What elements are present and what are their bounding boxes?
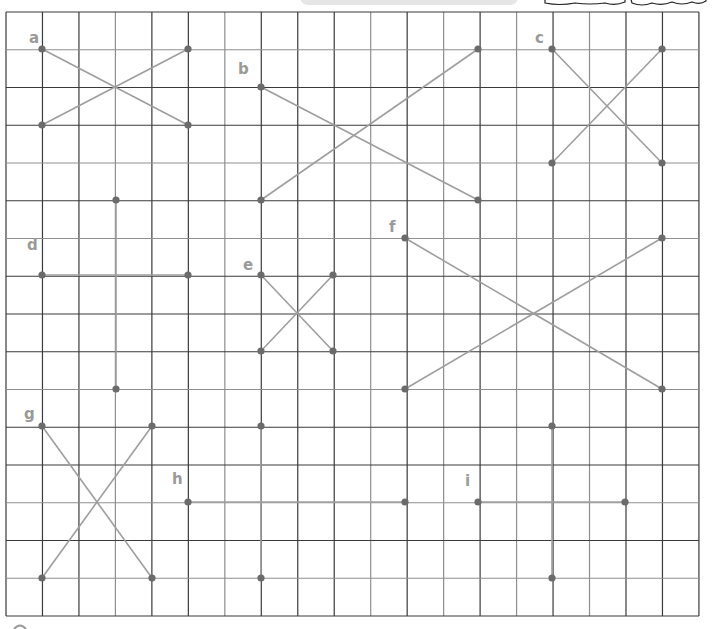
endpoint-dot (38, 121, 45, 128)
endpoint-dot (184, 498, 191, 505)
figure-label-f: f (389, 218, 396, 236)
endpoint-dot (38, 45, 45, 52)
top-wavy-shape-right (630, 0, 706, 5)
endpoint-dot (401, 234, 408, 241)
segment-b (261, 87, 478, 200)
top-wavy-shape-left (545, 0, 625, 5)
endpoint-dot (257, 196, 264, 203)
endpoint-dot (474, 498, 481, 505)
cropped-icon (14, 626, 26, 629)
endpoint-dot (184, 271, 191, 278)
figure-label-i: i (465, 472, 470, 490)
figure-label-e: e (243, 256, 253, 274)
endpoint-dot (257, 574, 264, 581)
endpoint-dot (474, 196, 481, 203)
endpoint-dot (148, 574, 155, 581)
endpoint-dot (257, 347, 264, 354)
segment-b (261, 49, 478, 200)
endpoint-dot (38, 422, 45, 429)
endpoint-dot (257, 83, 264, 90)
endpoint-dot (184, 45, 191, 52)
top-decorations (300, 0, 706, 5)
endpoint-dot (474, 45, 481, 52)
figure-label-b: b (238, 60, 249, 78)
endpoint-dot (621, 498, 628, 505)
figure-label-h: h (172, 470, 183, 488)
figure-label-d: d (27, 236, 38, 254)
top-title-bar (300, 0, 518, 5)
endpoint-dot (658, 159, 665, 166)
endpoint-dot (257, 422, 264, 429)
endpoint-dot (257, 271, 264, 278)
figure-label-c: c (535, 29, 544, 47)
worksheet-page: abcdefghi (0, 0, 713, 629)
figure-label-a: a (29, 29, 39, 47)
endpoint-dot (548, 574, 555, 581)
endpoint-dot (548, 422, 555, 429)
endpoint-dot (658, 385, 665, 392)
endpoint-dot (112, 385, 119, 392)
endpoint-dot (401, 385, 408, 392)
endpoint-dot (548, 45, 555, 52)
figure-label-g: g (24, 405, 35, 423)
endpoint-dot (329, 271, 336, 278)
endpoint-dot (148, 422, 155, 429)
grid-diagram: abcdefghi (0, 0, 713, 629)
endpoint-dot (38, 574, 45, 581)
endpoint-dot (658, 45, 665, 52)
endpoint-dot (184, 121, 191, 128)
endpoint-dot (112, 196, 119, 203)
endpoint-dot (658, 234, 665, 241)
endpoint-dot (38, 271, 45, 278)
endpoint-dot (401, 498, 408, 505)
endpoint-dot (329, 347, 336, 354)
grid-lines (6, 12, 699, 616)
endpoint-dot (548, 159, 555, 166)
